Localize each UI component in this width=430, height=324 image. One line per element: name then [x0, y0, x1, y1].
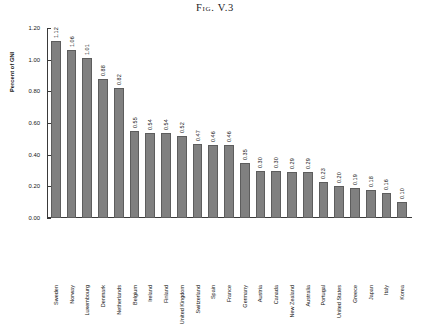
- bar[interactable]: [240, 163, 250, 218]
- bar[interactable]: [177, 136, 187, 218]
- bar-slot: 0.30: [253, 28, 269, 218]
- bar-slot: 0.54: [142, 28, 158, 218]
- bar-value-label: 0.10: [399, 188, 405, 199]
- bar[interactable]: [287, 172, 297, 218]
- bar[interactable]: [366, 190, 376, 219]
- x-axis-category-label: Denmark: [100, 285, 106, 307]
- bar-slot: 0.29: [300, 28, 316, 218]
- bar-slot: 0.10: [394, 28, 410, 218]
- x-axis-category-label: New Zealand: [289, 285, 295, 317]
- bar[interactable]: [130, 131, 140, 218]
- x-axis-category-slot: Portugal: [316, 221, 332, 289]
- x-axis-category-label: Italy: [383, 285, 389, 295]
- x-axis-category-slot: Belgium: [127, 221, 143, 289]
- bar[interactable]: [397, 202, 407, 218]
- x-axis-category-slot: Netherlands: [111, 221, 127, 289]
- bar[interactable]: [114, 88, 124, 218]
- bar-value-label: 0.54: [147, 119, 153, 130]
- bar-value-label: 0.30: [273, 157, 279, 168]
- bar-value-label: 0.19: [352, 174, 358, 185]
- bar[interactable]: [193, 144, 203, 218]
- y-axis-tick-label: 1.00: [0, 57, 40, 63]
- bar[interactable]: [98, 79, 108, 218]
- x-axis-category-slot: Germany: [237, 221, 253, 289]
- x-axis-category-label: Netherlands: [116, 285, 122, 315]
- bar[interactable]: [51, 41, 61, 218]
- bar-slot: 0.30: [268, 28, 284, 218]
- y-axis-tick-label: 0.00: [0, 215, 40, 221]
- bar[interactable]: [82, 58, 92, 218]
- x-axis-category-slot: Spain: [205, 221, 221, 289]
- x-axis-category-label: Austria: [257, 285, 263, 302]
- x-axis-category-slot: Finland: [158, 221, 174, 289]
- bar-slot: 0.18: [363, 28, 379, 218]
- bar-value-label: 0.46: [210, 131, 216, 142]
- bar[interactable]: [319, 182, 329, 218]
- bar-value-label: 0.88: [100, 65, 106, 76]
- bar-value-label: 0.55: [132, 117, 138, 128]
- x-axis-category-slot: Switzerland: [190, 221, 206, 289]
- y-axis-tick-label: 0.80: [0, 88, 40, 94]
- bar-slot: 0.16: [379, 28, 395, 218]
- bar-value-label: 1.12: [53, 27, 59, 38]
- x-axis-category-labels: SwedenNorwayLuxembourgDenmarkNetherlands…: [48, 221, 412, 289]
- bar-slot: 1.06: [64, 28, 80, 218]
- x-axis-category-label: Japan: [368, 285, 374, 300]
- y-axis-tick-label: 1.20: [0, 25, 40, 31]
- x-axis-category-label: United States: [336, 285, 342, 318]
- bar-value-label: 0.30: [257, 157, 263, 168]
- bar-slot: 0.20: [331, 28, 347, 218]
- bar[interactable]: [224, 145, 234, 218]
- bar[interactable]: [256, 171, 266, 219]
- x-axis-category-slot: Korea: [394, 221, 410, 289]
- bar-value-label: 0.18: [368, 176, 374, 187]
- bar-slot: 0.47: [190, 28, 206, 218]
- bar[interactable]: [145, 133, 155, 219]
- bar-value-label: 0.52: [179, 122, 185, 133]
- x-axis-category-label: United Kingdom: [179, 285, 185, 324]
- bar-slot: 1.12: [48, 28, 64, 218]
- x-axis-category-slot: Japan: [363, 221, 379, 289]
- x-axis-category-slot: France: [221, 221, 237, 289]
- bar-value-label: 0.35: [242, 149, 248, 160]
- bar-slot: 1.01: [79, 28, 95, 218]
- bar-value-label: 0.16: [383, 179, 389, 190]
- bar-value-label: 0.54: [163, 119, 169, 130]
- bar-slot: 0.23: [316, 28, 332, 218]
- x-axis-category-label: Germany: [242, 285, 248, 308]
- x-axis-category-slot: Luxembourg: [79, 221, 95, 289]
- x-axis-category-slot: Norway: [64, 221, 80, 289]
- x-axis-category-slot: Greece: [347, 221, 363, 289]
- bar-value-label: 1.06: [69, 36, 75, 47]
- bar-value-label: 0.20: [336, 173, 342, 184]
- x-axis-category-label: Australia: [305, 285, 311, 306]
- x-axis-category-slot: Canada: [268, 221, 284, 289]
- bar-slot: 0.19: [347, 28, 363, 218]
- bar[interactable]: [334, 186, 344, 218]
- bar[interactable]: [271, 171, 281, 219]
- x-axis-category-slot: New Zealand: [284, 221, 300, 289]
- bar-value-label: 0.23: [320, 168, 326, 179]
- bar[interactable]: [350, 188, 360, 218]
- bar[interactable]: [67, 50, 77, 218]
- bar-value-label: 0.82: [116, 74, 122, 85]
- bar-value-label: 0.46: [226, 131, 232, 142]
- x-axis-category-slot: United Kingdom: [174, 221, 190, 289]
- x-axis-category-slot: Australia: [300, 221, 316, 289]
- bar-slot: 0.82: [111, 28, 127, 218]
- bar-slot: 0.35: [237, 28, 253, 218]
- x-axis-category-label: Switzerland: [195, 285, 201, 313]
- x-axis-category-label: Greece: [352, 285, 358, 303]
- bar[interactable]: [303, 172, 313, 218]
- bar[interactable]: [161, 133, 171, 219]
- x-axis-category-label: Ireland: [147, 285, 153, 302]
- x-axis-category-label: Canada: [273, 285, 279, 304]
- x-axis-category-slot: Sweden: [48, 221, 64, 289]
- bar[interactable]: [208, 145, 218, 218]
- x-axis-category-slot: Italy: [379, 221, 395, 289]
- x-axis-category-label: Korea: [399, 285, 405, 300]
- x-axis-category-label: Belgium: [132, 285, 138, 305]
- bar[interactable]: [382, 193, 392, 218]
- x-axis-category-slot: Ireland: [142, 221, 158, 289]
